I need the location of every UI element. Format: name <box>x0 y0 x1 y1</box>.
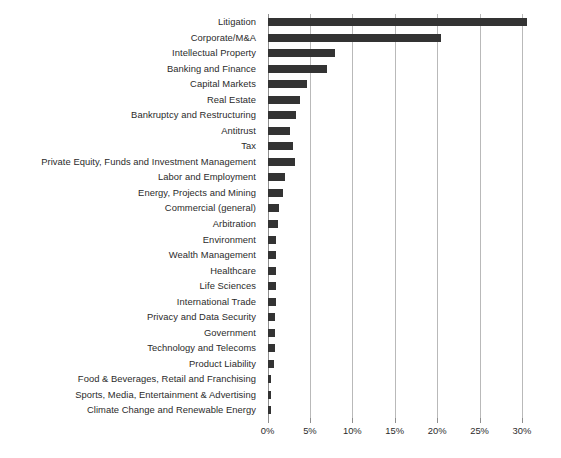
x-axis: 0%5%10%15%20%25%30% <box>268 418 523 448</box>
category-label: Climate Change and Renewable Energy <box>87 402 256 418</box>
bar-row <box>268 356 523 372</box>
bar <box>268 18 528 26</box>
category-label: Capital Markets <box>190 76 256 92</box>
category-label: Banking and Finance <box>167 61 256 77</box>
bar <box>268 344 276 352</box>
bar-row <box>268 61 523 77</box>
category-axis-labels: LitigationCorporate/M&AIntellectual Prop… <box>0 14 263 418</box>
plot-area <box>268 14 523 418</box>
category-label: Labor and Employment <box>158 169 256 185</box>
category-label: Government <box>204 325 256 341</box>
category-label: Sports, Media, Entertainment & Advertisi… <box>75 387 256 403</box>
bar <box>268 329 276 337</box>
bar-row <box>268 340 523 356</box>
bar-row <box>268 30 523 46</box>
x-tick-mark <box>522 418 523 423</box>
bar <box>268 189 283 197</box>
bar <box>268 127 291 135</box>
category-label: Technology and Telecoms <box>147 340 256 356</box>
bar <box>268 34 441 42</box>
bar-chart: LitigationCorporate/M&AIntellectual Prop… <box>0 0 561 458</box>
bar <box>268 236 276 244</box>
bar <box>268 65 327 73</box>
bar <box>268 220 278 228</box>
bar-row <box>268 278 523 294</box>
bar <box>268 375 271 383</box>
bar <box>268 80 307 88</box>
category-label: Bankruptcy and Restructuring <box>131 107 256 123</box>
category-label: Intellectual Property <box>172 45 256 61</box>
bar-row <box>268 169 523 185</box>
x-tick-mark <box>268 418 269 423</box>
x-tick-mark <box>310 418 311 423</box>
bar <box>268 282 276 290</box>
bar <box>268 111 297 119</box>
bar-row <box>268 232 523 248</box>
bar-row <box>268 14 523 30</box>
bar-row <box>268 387 523 403</box>
bar-row <box>268 325 523 341</box>
category-label: Antitrust <box>221 123 256 139</box>
x-tick-label: 15% <box>385 425 404 436</box>
bar <box>268 298 276 306</box>
bar-row <box>268 185 523 201</box>
category-label: Corporate/M&A <box>191 30 256 46</box>
bar <box>268 313 276 321</box>
bar-row <box>268 402 523 418</box>
x-tick-mark <box>480 418 481 423</box>
x-tick-mark <box>437 418 438 423</box>
bar-row <box>268 138 523 154</box>
category-label: Energy, Projects and Mining <box>138 185 256 201</box>
bar-row <box>268 123 523 139</box>
x-tick-label: 30% <box>513 425 532 436</box>
x-tick-label: 25% <box>470 425 489 436</box>
x-tick-mark <box>352 418 353 423</box>
bar <box>268 251 276 259</box>
bar-row <box>268 247 523 263</box>
bar <box>268 49 335 57</box>
bar-row <box>268 371 523 387</box>
category-label: Product Liability <box>189 356 256 372</box>
category-label: Environment <box>203 232 256 248</box>
x-tick-label: 10% <box>343 425 362 436</box>
bar-row <box>268 263 523 279</box>
bar <box>268 406 271 414</box>
bar-row <box>268 107 523 123</box>
bar-row <box>268 309 523 325</box>
bar <box>268 204 280 212</box>
bar-row <box>268 200 523 216</box>
category-label: Tax <box>241 138 256 154</box>
category-label: Healthcare <box>210 263 256 279</box>
x-tick-mark <box>395 418 396 423</box>
category-label: Arbitration <box>213 216 256 232</box>
bar-row <box>268 294 523 310</box>
category-label: Wealth Management <box>169 247 256 263</box>
bar-row <box>268 154 523 170</box>
bar <box>268 360 275 368</box>
x-tick-label: 20% <box>428 425 447 436</box>
gridline-30% <box>522 14 523 418</box>
bar-row <box>268 216 523 232</box>
category-label: International Trade <box>177 294 256 310</box>
bar <box>268 158 295 166</box>
bar-row <box>268 92 523 108</box>
category-label: Food & Beverages, Retail and Franchising <box>78 371 256 387</box>
x-tick-label: 5% <box>303 425 317 436</box>
category-label: Litigation <box>218 14 256 30</box>
category-label: Commercial (general) <box>165 200 256 216</box>
category-label: Private Equity, Funds and Investment Man… <box>41 154 256 170</box>
category-label: Life Sciences <box>200 278 256 294</box>
bar <box>268 142 293 150</box>
category-label: Privacy and Data Security <box>147 309 256 325</box>
x-tick-label: 0% <box>261 425 275 436</box>
bar-row <box>268 45 523 61</box>
bar <box>268 96 300 104</box>
bar <box>268 267 276 275</box>
bar-row <box>268 76 523 92</box>
category-label: Real Estate <box>207 92 256 108</box>
bar <box>268 391 271 399</box>
bar <box>268 173 286 181</box>
